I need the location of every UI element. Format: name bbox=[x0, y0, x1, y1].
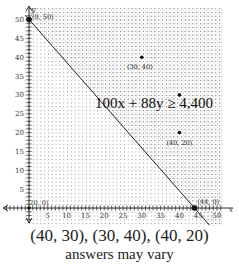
y-tick-label: 45 bbox=[15, 35, 24, 43]
inequality-graph: 51015202530354045505101520253035404550xy… bbox=[0, 0, 239, 226]
x-axis-label: x bbox=[229, 206, 233, 214]
data-point bbox=[140, 55, 144, 59]
y-tick-label: 20 bbox=[15, 129, 24, 137]
point-label: (40, 20) bbox=[167, 139, 193, 147]
y-tick-label: 5 bbox=[20, 186, 24, 194]
y-tick-label: 50 bbox=[15, 16, 24, 24]
x-tick-label: 50 bbox=[213, 212, 222, 220]
answer-text: (40, 30), (30, 40), (40, 20) bbox=[0, 226, 239, 246]
x-tick-label: 5 bbox=[46, 212, 50, 220]
data-point bbox=[192, 205, 198, 211]
y-tick-label: 40 bbox=[15, 54, 24, 62]
inequality-label: 100x + 88y ≥ 4,400 bbox=[95, 95, 213, 111]
point-label: (30, 40) bbox=[127, 63, 153, 71]
note-text: answers may vary bbox=[0, 246, 239, 263]
x-tick-label: 15 bbox=[81, 212, 90, 220]
point-label: (0, 0) bbox=[31, 199, 49, 207]
y-tick-label: 15 bbox=[15, 148, 24, 156]
y-tick-label: 30 bbox=[15, 91, 24, 99]
data-point bbox=[178, 93, 182, 97]
point-label: (44, 0) bbox=[197, 198, 219, 206]
x-tick-label: 35 bbox=[156, 212, 165, 220]
x-tick-label: 25 bbox=[119, 212, 128, 220]
x-tick-label: 10 bbox=[62, 212, 71, 220]
y-tick-label: 10 bbox=[15, 167, 24, 175]
data-point bbox=[26, 17, 32, 23]
x-tick-label: 20 bbox=[100, 212, 109, 220]
plot-area: 51015202530354045505101520253035404550xy… bbox=[3, 5, 233, 226]
y-tick-label: 25 bbox=[15, 110, 24, 118]
x-tick-label: 30 bbox=[137, 212, 146, 220]
data-point bbox=[178, 131, 182, 135]
x-tick-label: 40 bbox=[175, 212, 184, 220]
point-label: (0, 50) bbox=[32, 13, 54, 21]
y-tick-label: 35 bbox=[15, 73, 24, 81]
